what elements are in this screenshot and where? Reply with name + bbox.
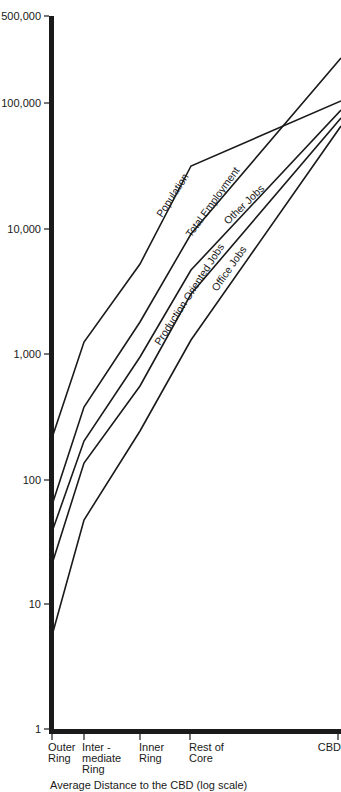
ytick-1: 1	[35, 723, 41, 735]
ytick-10000: 10,000	[7, 223, 41, 235]
x-axis-title: Average Distance to the CBD (log scale)	[50, 779, 247, 791]
chart: 500,000 100,000 10,000 1,000 100 10 1 Ou…	[0, 0, 341, 792]
line-other-jobs	[53, 110, 341, 529]
ytick-10: 10	[29, 598, 41, 610]
xtick-inner-ring-line2: Ring	[139, 752, 162, 764]
label-production-oriented-jobs: Production Oriented Jobs	[152, 241, 227, 347]
label-total-employment: Total Employment	[183, 165, 242, 240]
line-population	[53, 101, 341, 435]
xtick-outer-ring-line2: Ring	[48, 752, 71, 764]
y-tick-labels: 500,000 100,000 10,000 1,000 100 10 1	[1, 10, 41, 735]
x-axis	[49, 729, 341, 734]
label-population: Population	[154, 171, 191, 219]
ytick-100000: 100,000	[1, 97, 41, 109]
xtick-cbd: CBD	[318, 741, 341, 753]
x-tick-labels: Outer Ring Inter - mediate Ring Inner Ri…	[48, 741, 341, 775]
xtick-intermediate-ring-line3: Ring	[82, 763, 105, 775]
line-production-oriented-jobs	[53, 118, 341, 561]
line-office-jobs	[53, 126, 341, 632]
y-ticks	[44, 16, 49, 729]
x-ticks	[52, 734, 338, 740]
series-lines	[53, 58, 341, 632]
y-axis	[49, 16, 54, 734]
ytick-500000: 500,000	[1, 10, 41, 22]
ytick-100: 100	[23, 474, 41, 486]
ytick-1000: 1,000	[13, 348, 41, 360]
xtick-rest-of-core-line2: Core	[189, 752, 213, 764]
